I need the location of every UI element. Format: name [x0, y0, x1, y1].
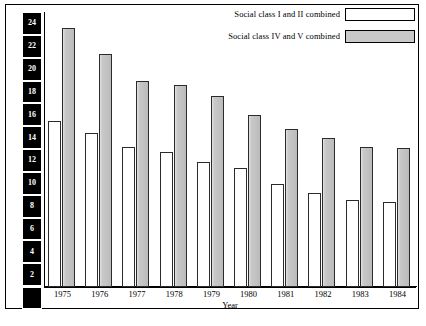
- chart-figure: Social class I and II combined Social cl…: [0, 0, 426, 326]
- bar-group-1981: [271, 12, 298, 287]
- bar-1977-class-i-ii: [122, 147, 135, 287]
- bar-1984-class-i-ii: [383, 202, 396, 287]
- bar-1984-class-iv-v: [397, 148, 410, 287]
- bar-1979-class-iv-v: [211, 96, 224, 287]
- bar-1975-class-i-ii: [48, 121, 61, 287]
- bar-1977-class-iv-v: [136, 81, 149, 287]
- y-tick-4: 4: [22, 240, 42, 263]
- y-tick-8: 8: [22, 195, 42, 218]
- bar-1980-class-iv-v: [248, 115, 261, 287]
- bar-1976-class-i-ii: [85, 133, 98, 287]
- bar-1983-class-i-ii: [346, 200, 359, 287]
- y-tick-24: 24: [22, 12, 42, 35]
- bar-group-1979: [197, 12, 224, 287]
- x-tick-1984: 1984: [379, 290, 416, 299]
- bar-1982-class-i-ii: [308, 193, 321, 287]
- x-tick-1978: 1978: [156, 290, 193, 299]
- x-axis-label: Year: [44, 300, 416, 310]
- bar-group-1975: [48, 12, 75, 287]
- bar-1982-class-iv-v: [322, 138, 335, 287]
- y-axis-ticks: 242220181614121086420: [22, 12, 42, 309]
- y-tick-18: 18: [22, 81, 42, 104]
- bar-group-1978: [160, 12, 187, 287]
- bar-group-1977: [122, 12, 149, 287]
- bar-1976-class-iv-v: [99, 54, 112, 287]
- bar-1980-class-i-ii: [234, 168, 247, 287]
- y-tick-20: 20: [22, 58, 42, 81]
- x-tick-1975: 1975: [44, 290, 81, 299]
- bar-1978-class-iv-v: [174, 85, 187, 287]
- bar-1975-class-iv-v: [62, 28, 75, 287]
- x-tick-1980: 1980: [230, 290, 267, 299]
- bar-1981-class-i-ii: [271, 184, 284, 287]
- bar-group-1982: [308, 12, 335, 287]
- y-tick-14: 14: [22, 126, 42, 149]
- y-tick-16: 16: [22, 103, 42, 126]
- y-tick-2: 2: [22, 263, 42, 286]
- bar-1979-class-i-ii: [197, 162, 210, 287]
- bar-group-1983: [346, 12, 373, 287]
- bar-group-1980: [234, 12, 261, 287]
- y-tick-22: 22: [22, 35, 42, 58]
- y-tick-6: 6: [22, 218, 42, 241]
- x-tick-1983: 1983: [342, 290, 379, 299]
- x-tick-1981: 1981: [267, 290, 304, 299]
- plot-area: [44, 12, 416, 287]
- axis-corner-block: [22, 287, 42, 309]
- x-tick-1979: 1979: [193, 290, 230, 299]
- bar-1983-class-iv-v: [360, 147, 373, 287]
- bar-group-1984: [383, 12, 410, 287]
- x-tick-1977: 1977: [118, 290, 155, 299]
- y-tick-12: 12: [22, 149, 42, 172]
- x-tick-1982: 1982: [304, 290, 341, 299]
- bar-1981-class-iv-v: [285, 129, 298, 287]
- bar-group-1976: [85, 12, 112, 287]
- y-tick-10: 10: [22, 172, 42, 195]
- x-tick-1976: 1976: [81, 290, 118, 299]
- bar-1978-class-i-ii: [160, 152, 173, 287]
